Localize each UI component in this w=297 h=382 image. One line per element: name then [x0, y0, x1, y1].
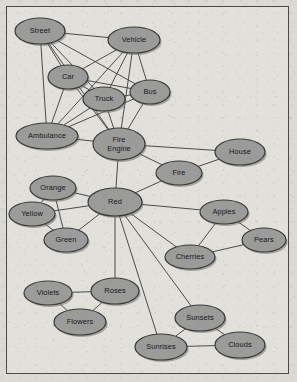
edge-vehicle-car: [83, 50, 117, 69]
node-pears[interactable]: Pears: [242, 228, 288, 254]
node-apples[interactable]: Apples: [200, 200, 250, 226]
edge-red-cherries: [131, 213, 177, 247]
node-label-car: Car: [62, 72, 75, 81]
node-label-house: House: [229, 147, 251, 156]
node-label-street: Street: [30, 26, 50, 35]
node-label-cherries: Cherries: [176, 252, 205, 261]
node-red[interactable]: Red: [88, 188, 144, 218]
node-label-vehicle: Vehicle: [122, 35, 147, 44]
node-label-roses: Roses: [104, 286, 126, 295]
node-label-red: Red: [108, 197, 122, 206]
edge-house-fire: [198, 159, 219, 166]
node-label-flowers: Flowers: [67, 317, 94, 326]
edge-orange-green: [56, 200, 63, 228]
node-fire[interactable]: Fire: [156, 161, 204, 187]
semantic-network-graph: StreetVehicleCarBusTruckAmbulanceFireEng…: [0, 0, 297, 382]
nodes-layer: StreetVehicleCarBusTruckAmbulanceFireEng…: [9, 18, 288, 362]
node-label-fire: Fire: [172, 168, 185, 177]
edge-roses-flowers: [93, 302, 103, 311]
node-sunrises[interactable]: Sunrises: [135, 334, 189, 362]
edge-sunsets-sunrises: [176, 329, 186, 337]
node-green[interactable]: Green: [44, 228, 90, 254]
node-bus[interactable]: Bus: [130, 80, 172, 106]
node-violets[interactable]: Violets: [24, 281, 74, 307]
edge-fireengine-house: [145, 146, 215, 151]
node-sunsets[interactable]: Sunsets: [175, 305, 227, 333]
node-truck[interactable]: Truck: [83, 87, 127, 113]
node-roses[interactable]: Roses: [91, 278, 141, 306]
edge-red-yellow: [54, 206, 89, 211]
node-house[interactable]: House: [215, 139, 267, 167]
edge-street-ambulance: [41, 44, 46, 123]
node-label-sunsets: Sunsets: [186, 313, 214, 322]
node-orange[interactable]: Orange: [30, 176, 78, 202]
diagram-page: StreetVehicleCarBusTruckAmbulanceFireEng…: [0, 0, 297, 382]
edge-ambulance-fireengine: [77, 139, 93, 141]
node-flowers[interactable]: Flowers: [54, 309, 108, 337]
edge-red-green: [79, 214, 100, 231]
node-street[interactable]: Street: [15, 18, 67, 46]
node-label-orange: Orange: [40, 183, 65, 192]
edge-fireengine-red: [116, 160, 118, 188]
edge-vehicle-truck: [110, 53, 128, 88]
node-car[interactable]: Car: [48, 65, 90, 91]
edge-street-vehicle: [65, 33, 109, 37]
node-label-sunrises: Sunrises: [146, 342, 176, 351]
edge-truck-bus: [124, 95, 130, 96]
edge-apples-cherries: [199, 223, 216, 245]
edge-sunrises-clouds: [187, 346, 215, 347]
node-label-bus: Bus: [143, 87, 156, 96]
edge-vehicle-bus: [138, 53, 146, 80]
node-label-clouds: Clouds: [228, 340, 252, 349]
node-label-yellow: Yellow: [21, 209, 43, 218]
node-vehicle[interactable]: Vehicle: [108, 27, 162, 55]
edge-violets-roses: [72, 292, 91, 293]
edge-fireengine-fire: [139, 154, 162, 165]
edge-red-apples: [142, 204, 201, 209]
node-label-pears: Pears: [254, 235, 274, 244]
edge-truck-fireengine: [108, 111, 114, 129]
node-label-truck: Truck: [95, 94, 114, 103]
node-label-apples: Apples: [212, 207, 235, 216]
edge-pears-cherries: [213, 245, 244, 252]
node-cherries[interactable]: Cherries: [165, 245, 217, 271]
node-label-green: Green: [55, 235, 76, 244]
node-ambulance[interactable]: Ambulance: [16, 123, 80, 151]
edge-fire-red: [135, 181, 161, 193]
edge-truck-ambulance: [64, 108, 90, 125]
node-clouds[interactable]: Clouds: [215, 332, 267, 360]
node-label-ambulance: Ambulance: [28, 131, 66, 140]
edge-car-ambulance: [52, 89, 64, 123]
node-label-violets: Violets: [37, 288, 60, 297]
node-fireengine[interactable]: FireEngine: [93, 128, 147, 162]
edge-bus-fireengine: [128, 103, 143, 129]
node-yellow[interactable]: Yellow: [9, 202, 57, 228]
